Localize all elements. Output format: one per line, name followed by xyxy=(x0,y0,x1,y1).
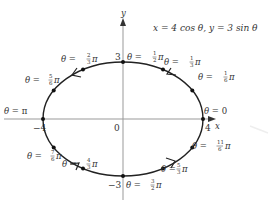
svg-text:θ =: θ = xyxy=(25,75,40,85)
svg-text:θ =: θ = xyxy=(27,151,42,161)
svg-text:π: π xyxy=(228,72,235,82)
point-theta-3pi-2 xyxy=(121,174,125,178)
svg-text:π: π xyxy=(91,54,98,64)
svg-text:6: 6 xyxy=(224,77,228,83)
decorative-stroke xyxy=(250,126,268,133)
parametric-ellipse-diagram: x y 0 −4 4 3 −3 x = 4 cos θ, y = 3 sin θ… xyxy=(0,0,270,214)
svg-text:1: 1 xyxy=(153,50,157,56)
label-theta-pi: θ = π xyxy=(4,106,28,116)
y-axis-label: y xyxy=(120,8,126,18)
svg-text:π: π xyxy=(91,159,98,169)
label-theta-5pi-3: θ = 5 3 π xyxy=(161,162,188,175)
svg-text:θ =: θ = xyxy=(192,141,207,151)
label-theta-0: θ = 0 xyxy=(204,106,227,116)
point-theta-0 xyxy=(201,117,205,121)
svg-text:2: 2 xyxy=(153,57,157,63)
svg-text:3: 3 xyxy=(87,164,91,170)
svg-text:π: π xyxy=(181,164,188,174)
svg-text:θ = π: θ = π xyxy=(4,106,28,116)
y-tick-neg: −3 xyxy=(108,180,122,190)
svg-text:1: 1 xyxy=(224,70,228,76)
svg-text:3: 3 xyxy=(87,59,91,65)
svg-text:7: 7 xyxy=(51,149,55,155)
label-theta-pi-6: θ = 1 6 π xyxy=(198,70,235,83)
svg-text:6: 6 xyxy=(218,146,222,152)
svg-text:5: 5 xyxy=(177,162,181,168)
svg-text:θ =: θ = xyxy=(126,180,141,190)
svg-text:θ = 0: θ = 0 xyxy=(204,106,227,116)
svg-text:θ =: θ = xyxy=(161,164,176,174)
svg-text:θ =: θ = xyxy=(61,54,76,64)
point-theta-2pi-3 xyxy=(81,68,85,72)
svg-text:3: 3 xyxy=(177,169,181,175)
svg-text:5: 5 xyxy=(49,73,53,79)
point-theta-pi-2 xyxy=(121,60,125,64)
point-theta-4pi-3 xyxy=(81,166,85,170)
svg-text:θ =: θ = xyxy=(198,72,213,82)
svg-text:π: π xyxy=(157,52,164,62)
y-tick-pos: 3 xyxy=(115,52,121,62)
svg-text:3: 3 xyxy=(151,178,155,184)
svg-text:θ =: θ = xyxy=(164,57,179,67)
svg-text:π: π xyxy=(194,57,201,67)
svg-text:3: 3 xyxy=(190,62,194,68)
label-theta-2pi-3: θ = 2 3 π xyxy=(61,52,98,65)
label-theta-4pi-3: θ = 4 3 π xyxy=(62,157,98,170)
svg-text:θ =: θ = xyxy=(62,159,77,169)
svg-text:6: 6 xyxy=(49,80,53,86)
label-theta-3pi-2: θ = 3 2 π xyxy=(126,178,162,191)
point-theta-pi-6 xyxy=(190,89,194,93)
svg-text:π: π xyxy=(53,75,60,85)
svg-text:π: π xyxy=(224,141,231,151)
point-theta-pi-3 xyxy=(161,68,165,72)
svg-text:π: π xyxy=(55,151,62,161)
svg-text:θ =: θ = xyxy=(127,52,142,62)
label-theta-5pi-6: θ = 5 6 π xyxy=(25,73,60,86)
svg-text:2: 2 xyxy=(87,52,91,58)
label-theta-pi-3: θ = 1 3 π xyxy=(164,55,201,68)
svg-text:π: π xyxy=(155,180,162,190)
svg-text:11: 11 xyxy=(217,139,224,145)
parametric-equation: x = 4 cos θ, y = 3 sin θ xyxy=(153,23,258,33)
x-axis-label: x xyxy=(215,121,220,131)
y-axis-arrow-icon xyxy=(120,18,126,26)
svg-text:2: 2 xyxy=(151,185,155,191)
svg-text:1: 1 xyxy=(190,55,194,61)
point-theta-pi xyxy=(41,117,45,121)
origin-label: 0 xyxy=(114,123,120,133)
label-theta-11pi-6: θ = 11 6 π xyxy=(192,139,231,152)
label-theta-pi-2: θ = 1 2 π xyxy=(127,50,164,63)
svg-text:6: 6 xyxy=(51,156,55,162)
arrow-chevron-icon xyxy=(167,68,176,75)
point-theta-5pi-6 xyxy=(52,89,56,93)
x-tick-pos: 4 xyxy=(205,123,211,133)
label-theta-7pi-6: θ = 7 6 π xyxy=(27,149,62,162)
svg-text:4: 4 xyxy=(87,157,91,163)
